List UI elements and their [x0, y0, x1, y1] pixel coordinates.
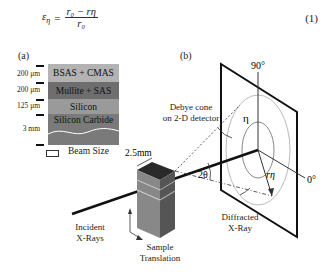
svg-text:η: η [243, 112, 249, 124]
svg-text:2θ: 2θ [198, 169, 208, 180]
label-diffracted-xray: Diffracted X-Ray [210, 212, 270, 234]
svg-text:2.5mm: 2.5mm [125, 148, 152, 158]
label-incident-xrays: Incident X-Rays [65, 222, 115, 244]
svg-text:90°: 90° [251, 60, 265, 71]
svg-text:rη: rη [266, 169, 275, 180]
label-sample-translation: Sample Translation [130, 242, 190, 264]
sample-front [137, 170, 160, 238]
label-debye-cone: Debye cone on 2-D detector [156, 102, 226, 124]
svg-text:0°: 0° [307, 174, 316, 185]
diffraction-diagram: 90° 0° η rη 2θ 2.5mm [0, 0, 330, 274]
sample-side [160, 171, 175, 238]
